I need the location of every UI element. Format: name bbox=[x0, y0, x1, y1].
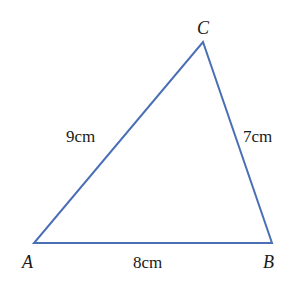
vertex-label-a: A bbox=[21, 252, 34, 272]
triangle-diagram: C A B 9cm 7cm 8cm bbox=[0, 0, 299, 286]
vertex-label-c: C bbox=[197, 18, 210, 38]
side-label-ac: 9cm bbox=[66, 127, 95, 146]
vertex-label-b: B bbox=[263, 252, 274, 272]
side-label-ab: 8cm bbox=[133, 253, 162, 272]
side-label-bc: 7cm bbox=[243, 127, 272, 146]
